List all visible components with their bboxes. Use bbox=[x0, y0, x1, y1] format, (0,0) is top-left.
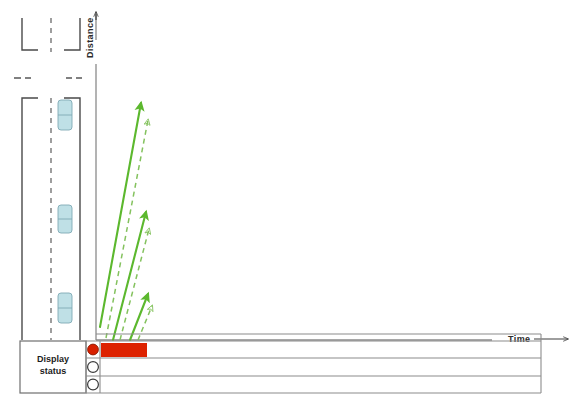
vehicle-1 bbox=[58, 100, 72, 130]
display-status-panel: Display status bbox=[20, 334, 541, 393]
road-edge-upper-right bbox=[64, 18, 80, 50]
road-schematic bbox=[14, 18, 82, 340]
display-status-label-line1: Display bbox=[37, 354, 69, 364]
road-edge-upper-left bbox=[22, 18, 38, 50]
trajectory-group bbox=[100, 103, 152, 340]
platoon-1 bbox=[100, 103, 148, 338]
status-lamp-row-3[interactable] bbox=[88, 379, 99, 390]
vehicle-2 bbox=[58, 205, 72, 233]
status-lamp-row-1[interactable] bbox=[88, 344, 99, 355]
platoon-1-lead-trajectory bbox=[100, 103, 141, 327]
vehicle-3 bbox=[58, 293, 72, 323]
status-bar-row-1 bbox=[101, 343, 147, 357]
platoon-3-lead-trajectory bbox=[130, 294, 148, 340]
distance-axis-label: Distance bbox=[85, 17, 95, 58]
axes: Distance Time bbox=[85, 12, 568, 344]
status-lamp-row-2[interactable] bbox=[88, 362, 99, 373]
figure-canvas: Distance Time Displa bbox=[0, 0, 576, 407]
time-space-diagram: Distance Time Displa bbox=[0, 0, 576, 407]
platoon-3-follow-trajectory bbox=[138, 306, 152, 340]
platoon-3 bbox=[130, 294, 152, 340]
time-axis-label: Time bbox=[508, 334, 530, 344]
display-status-label-line2: status bbox=[40, 366, 67, 376]
road-edge-lower-left bbox=[22, 98, 38, 340]
